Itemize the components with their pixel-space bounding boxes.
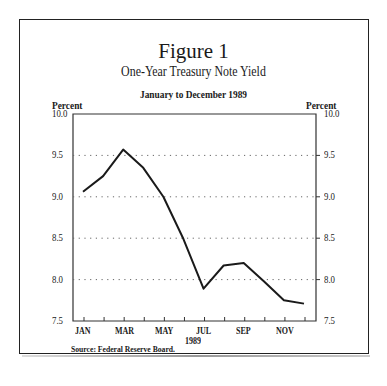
y-tick-label-right: 7.5 <box>324 314 335 326</box>
x-tick-label: NOV <box>276 325 294 336</box>
y-tick-label-left: 10.0 <box>52 107 67 119</box>
x-tick-label: MAY <box>155 325 173 336</box>
y-tick-label-right: 9.5 <box>324 148 335 160</box>
x-tick-label: SEP <box>236 325 251 336</box>
y-tick-label-left: 9.5 <box>52 148 63 160</box>
source-note: Source: Federal Reserve Board. <box>71 344 175 354</box>
x-tick-label: MAR <box>115 325 134 336</box>
x-tick-label: JAN <box>75 325 91 336</box>
year-label: 1989 <box>185 335 201 346</box>
y-tick-label-left: 9.0 <box>52 190 63 202</box>
y-tick-label-left: 8.5 <box>52 231 63 243</box>
y-tick-label-right: 10.0 <box>324 107 339 119</box>
y-tick-label-left: 8.0 <box>52 273 63 285</box>
yield-line <box>83 150 304 304</box>
y-tick-label-right: 8.0 <box>324 273 335 285</box>
plot-area <box>73 114 316 321</box>
y-tick-label-left: 7.5 <box>52 314 63 326</box>
y-tick-label-right: 9.0 <box>324 190 335 202</box>
y-tick-label-right: 8.5 <box>324 231 335 243</box>
